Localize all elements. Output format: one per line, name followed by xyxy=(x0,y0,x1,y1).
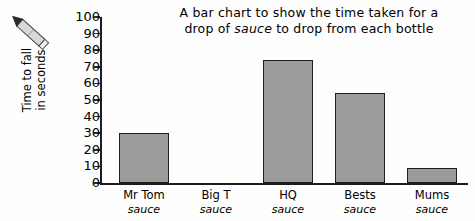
x-axis-tick-label: Bestssauce xyxy=(324,189,396,216)
x-axis-label-brand: HQ xyxy=(252,189,324,203)
y-axis-label-line-1: Time to fall xyxy=(20,25,34,135)
x-axis-tick-label: Big Tsauce xyxy=(180,189,252,216)
x-axis-label-suffix: sauce xyxy=(180,203,252,217)
bar xyxy=(407,168,457,183)
y-axis-tick-label: 0 xyxy=(64,176,100,189)
y-axis-tick-label: 90 xyxy=(64,27,100,40)
bar xyxy=(263,60,313,183)
bar xyxy=(119,133,169,183)
y-axis-tick-label: 20 xyxy=(64,143,100,156)
y-axis-line xyxy=(100,17,102,184)
y-axis-label: Time to fall in seconds xyxy=(20,25,56,135)
y-axis-tick-label: 100 xyxy=(64,10,100,23)
x-axis-tick-label: Mumssauce xyxy=(396,189,468,216)
x-axis-label-suffix: sauce xyxy=(324,203,396,217)
bar xyxy=(335,93,385,183)
y-axis-tick-labels: 0102030405060708090100 xyxy=(55,17,100,183)
x-axis-label-suffix: sauce xyxy=(108,203,180,217)
y-axis-tick-label: 30 xyxy=(64,126,100,139)
x-axis-line xyxy=(100,183,468,185)
x-axis-label-brand: Big T xyxy=(180,189,252,203)
x-axis-tick-label: Mr Tomsauce xyxy=(108,189,180,216)
y-axis-tick-label: 50 xyxy=(64,93,100,106)
x-axis-label-brand: Mums xyxy=(396,189,468,203)
x-axis-tick-label: HQsauce xyxy=(252,189,324,216)
x-axis-label-brand: Bests xyxy=(324,189,396,203)
y-axis-tick-label: 40 xyxy=(64,110,100,123)
bar-chart: A bar chart to show the time taken for a… xyxy=(0,0,475,221)
y-axis-tick-label: 80 xyxy=(64,43,100,56)
plot-area: 0102030405060708090100 Mr TomsauceBig Ts… xyxy=(100,17,468,183)
y-axis-label-line-2: in seconds xyxy=(34,25,48,135)
y-axis-tick-label: 60 xyxy=(64,76,100,89)
x-axis-label-suffix: sauce xyxy=(396,203,468,217)
y-axis-tick-label: 70 xyxy=(64,60,100,73)
x-axis-label-suffix: sauce xyxy=(252,203,324,217)
x-axis-label-brand: Mr Tom xyxy=(108,189,180,203)
y-axis-tick-label: 10 xyxy=(64,159,100,172)
